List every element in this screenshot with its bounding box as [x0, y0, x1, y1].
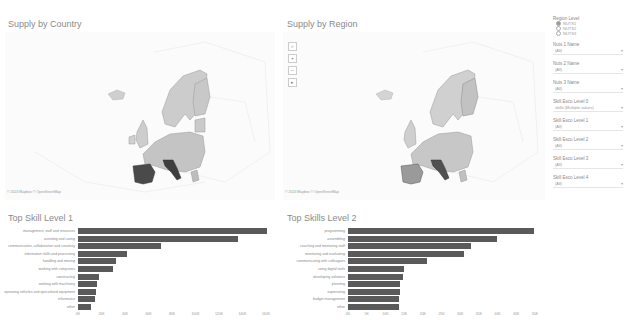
- filters-panel: Region Level NUTS1 NUTS2 NUTS3 Nuts 1 Na…: [553, 16, 623, 188]
- map-controls: ⌕ + − ▸: [288, 42, 297, 87]
- nuts3-filter-select[interactable]: (All)▾: [553, 85, 623, 93]
- chevron-down-icon: ▾: [621, 162, 623, 167]
- skill-level1-filter-select[interactable]: (All)▾: [553, 123, 623, 131]
- axis-tick: 25K: [438, 312, 444, 316]
- axis-tick: 0K: [346, 312, 350, 316]
- bar-label: communicating with colleagues: [297, 259, 345, 263]
- axis-tick: 5K: [365, 312, 369, 316]
- axis-tick: 40K: [494, 312, 500, 316]
- bar-label: monitoring and evaluating: [305, 252, 345, 256]
- chevron-down-icon: ▾: [621, 181, 623, 186]
- bar[interactable]: [348, 274, 403, 280]
- bar-label: budget management: [313, 297, 345, 301]
- bar[interactable]: [348, 289, 400, 295]
- axis-tick: 15K: [401, 312, 407, 316]
- bar[interactable]: [348, 243, 471, 249]
- bar-label: programming: [324, 229, 345, 233]
- axis-tick: 10K: [382, 312, 388, 316]
- axis-tick: 50K: [532, 312, 538, 316]
- axis-tick: 35K: [476, 312, 482, 316]
- axis-tick: 45K: [513, 312, 519, 316]
- chevron-down-icon: ▾: [621, 48, 623, 53]
- map-credit: © 2024 Mapbox © OpenStreetMap: [285, 190, 339, 194]
- axis-tick: 20K: [420, 312, 426, 316]
- bar[interactable]: [348, 266, 404, 272]
- skill-level2-filter-select[interactable]: (All)▾: [553, 142, 623, 150]
- axis-tick: 30K: [457, 312, 463, 316]
- bar-label: using digital tools: [318, 267, 345, 271]
- chevron-down-icon: ▾: [621, 124, 623, 129]
- pan-tool-button[interactable]: ▸: [288, 78, 297, 87]
- skill-level3-filter-select[interactable]: (All)▾: [553, 161, 623, 169]
- chart1-title: Top Skill Level 1: [8, 213, 73, 223]
- zoom-out-button[interactable]: −: [288, 66, 297, 75]
- bar-label: planning: [332, 282, 345, 286]
- chevron-down-icon: ▾: [621, 67, 623, 72]
- chevron-down-icon: ▾: [621, 105, 623, 110]
- bar[interactable]: [348, 228, 534, 234]
- top-skills-level2-chart: programmingassemblingcoaching and mentor…: [0, 226, 560, 326]
- bar[interactable]: [348, 258, 427, 264]
- radio-nuts3[interactable]: NUTS3: [556, 31, 623, 36]
- bar[interactable]: [348, 304, 399, 310]
- bar[interactable]: [348, 296, 399, 302]
- right-map-title: Supply by Region: [287, 19, 358, 29]
- skill-level0-filter-select[interactable]: skills (Multiple values)▾: [553, 104, 623, 112]
- chart2-title: Top Skills Level 2: [287, 213, 357, 223]
- bar[interactable]: [348, 236, 497, 242]
- zoom-in-button[interactable]: +: [288, 54, 297, 63]
- chevron-down-icon: ▾: [621, 86, 623, 91]
- nuts2-filter-select[interactable]: (All)▾: [553, 66, 623, 74]
- bar-label: developing solutions: [313, 275, 345, 279]
- supply-by-region-map[interactable]: ⌕ + − ▸ © 2024 Mapbox © OpenStreetMap: [283, 32, 545, 200]
- left-map-title: Supply by Country: [8, 19, 82, 29]
- bar-label: assembling: [327, 237, 345, 241]
- nuts1-filter-select[interactable]: (All)▾: [553, 47, 623, 55]
- europe-region-map-graphic: [283, 32, 545, 200]
- bar-label: other: [337, 305, 345, 309]
- supply-by-country-map[interactable]: © 2024 Mapbox © OpenStreetMap: [5, 32, 275, 200]
- map-search-button[interactable]: ⌕: [288, 42, 297, 51]
- bar[interactable]: [348, 281, 400, 287]
- radio-dot-icon: [556, 31, 561, 36]
- skill-level4-filter-select[interactable]: (All)▾: [553, 180, 623, 188]
- chevron-down-icon: ▾: [621, 143, 623, 148]
- bar-label: supervising: [327, 290, 345, 294]
- bar[interactable]: [348, 251, 464, 257]
- map-credit: © 2024 Mapbox © OpenStreetMap: [7, 190, 61, 194]
- europe-map-graphic: [5, 32, 275, 200]
- bar-label: coaching and mentoring staff: [300, 244, 345, 248]
